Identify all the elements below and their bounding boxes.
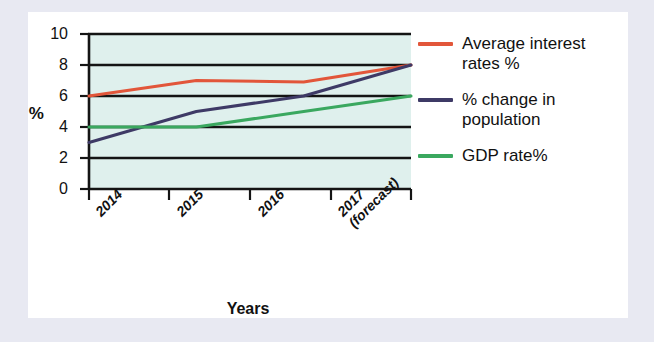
chart-card: 10 8 6 4 2 0 % 2014 2015 2016 2017 (fore…	[28, 12, 628, 318]
legend-swatch-gdp-rate	[418, 154, 453, 158]
legend-label-average-interest-rates: Average interest rates %	[462, 34, 622, 74]
y-tick-label-6: 6	[34, 88, 68, 104]
legend-item-gdp-rate: GDP rate%	[418, 146, 628, 166]
page-background: 10 8 6 4 2 0 % 2014 2015 2016 2017 (fore…	[0, 0, 654, 342]
chart-legend: Average interest rates % % change in pop…	[418, 34, 628, 182]
plot-background	[88, 34, 411, 189]
legend-swatch-percent-change-in-population	[418, 98, 453, 102]
legend-label-gdp-rate: GDP rate%	[462, 146, 548, 166]
legend-item-percent-change-in-population: % change in population	[418, 90, 628, 130]
y-tick-label-10: 10	[34, 26, 68, 42]
legend-item-average-interest-rates: Average interest rates %	[418, 34, 628, 74]
legend-label-percent-change-in-population: % change in population	[462, 90, 622, 130]
y-tick-label-8: 8	[34, 57, 68, 73]
x-axis-title: Years	[148, 300, 348, 318]
y-tick-label-0: 0	[34, 181, 68, 197]
legend-swatch-average-interest-rates	[418, 42, 453, 46]
y-tick-marks	[80, 34, 89, 189]
y-axis-title: %	[16, 104, 56, 124]
y-tick-label-2: 2	[34, 150, 68, 166]
line-chart: 10 8 6 4 2 0 % 2014 2015 2016 2017 (fore…	[28, 12, 628, 318]
